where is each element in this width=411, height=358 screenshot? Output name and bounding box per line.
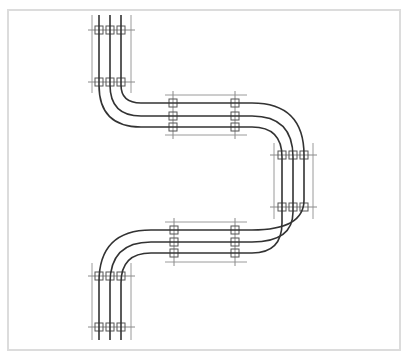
upper-horizontal-section bbox=[165, 91, 247, 139]
bottom-vertical-section bbox=[88, 263, 135, 340]
conductor-a bbox=[99, 15, 282, 340]
conductors bbox=[99, 15, 304, 340]
conductor-b bbox=[110, 15, 293, 340]
conductor-c bbox=[99, 15, 304, 340]
top-vertical-section bbox=[88, 15, 135, 93]
s-bend-routing-diagram bbox=[0, 0, 411, 358]
